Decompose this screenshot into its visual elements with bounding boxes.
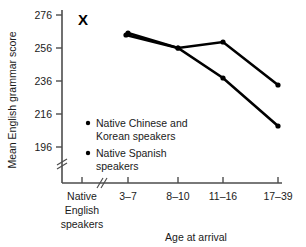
x-tick-label-native-line1: Native [67, 190, 97, 202]
series-line-spanish [126, 35, 278, 126]
data-point [220, 39, 225, 44]
legend-label-spanish-line1: Native Spanish [96, 147, 167, 159]
y-tick-label-256: 256 [34, 42, 52, 54]
chart-figure: Mean English grammar score 276 256 236 2… [0, 0, 306, 247]
chart-legend: Native Chinese and Korean speakers Nativ… [86, 117, 188, 172]
y-tick-label-276: 276 [34, 9, 52, 21]
x-tick-label-native-line2: English [65, 204, 100, 216]
data-point [220, 75, 225, 80]
legend-marker-spanish [86, 151, 90, 155]
panel-label: X [78, 11, 88, 28]
x-tick-label-native-line3: speakers [61, 218, 104, 230]
x-tick-label-3-7: 3–7 [119, 190, 137, 202]
data-point [175, 45, 180, 50]
x-tick-label-8-10: 8–10 [166, 190, 190, 202]
legend-label-chinese-korean-line2: Korean speakers [96, 130, 175, 142]
x-tick-label-17-39: 17–39 [263, 190, 292, 202]
line-chart: Mean English grammar score 276 256 236 2… [0, 0, 306, 247]
x-tick-label-11-16: 11–16 [209, 190, 238, 202]
y-axis-title: Mean English grammar score [6, 31, 18, 168]
y-tick-label-236: 236 [34, 75, 52, 87]
y-tick-label-216: 216 [34, 108, 52, 120]
legend-label-spanish-line2: speakers [96, 160, 139, 172]
x-axis-title: Age at arrival [165, 231, 227, 243]
legend-marker-chinese-korean [86, 121, 90, 125]
y-tick-label-196: 196 [34, 141, 52, 153]
legend-label-chinese-korean-line1: Native Chinese and [96, 117, 188, 129]
data-point [275, 82, 280, 87]
data-point [275, 123, 280, 128]
data-point [123, 32, 128, 37]
